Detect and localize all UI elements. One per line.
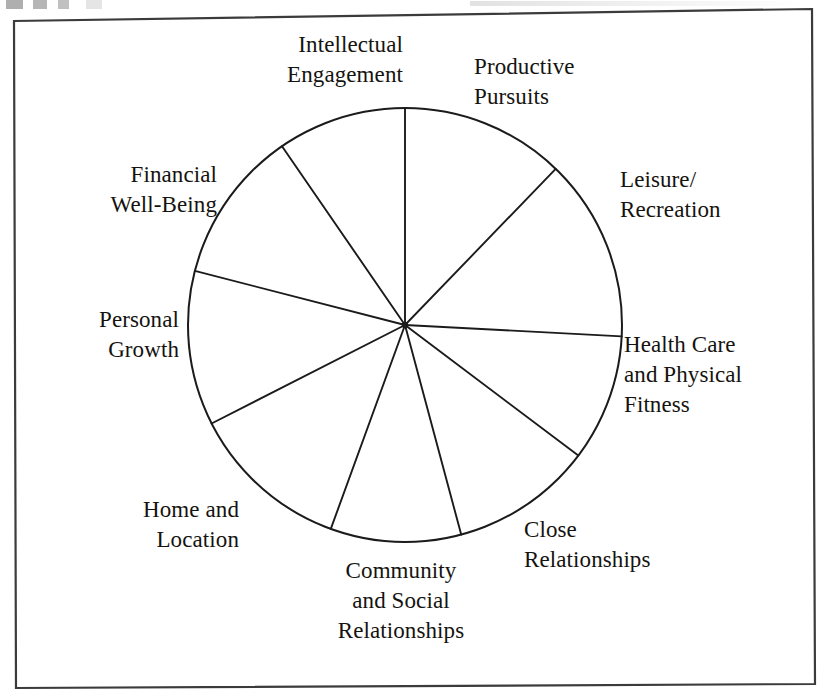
label-community-and-social-relationships: Community and Social Relationships: [281, 556, 521, 646]
label-financial-well-being: Financial Well-Being: [57, 160, 217, 220]
label-home-and-location: Home and Location: [79, 495, 239, 555]
label-intellectual-engagement: Intellectual Engagement: [233, 30, 403, 90]
wheel-hub: [402, 322, 408, 328]
label-close-relationships: Close Relationships: [524, 515, 734, 575]
figure-page: Intellectual Engagement Productive Pursu…: [0, 0, 824, 694]
label-productive-pursuits: Productive Pursuits: [474, 52, 664, 112]
label-health-care-and-physical-fitness: Health Care and Physical Fitness: [624, 330, 824, 420]
label-leisure-recreation: Leisure/ Recreation: [620, 165, 820, 225]
label-personal-growth: Personal Growth: [39, 305, 179, 365]
